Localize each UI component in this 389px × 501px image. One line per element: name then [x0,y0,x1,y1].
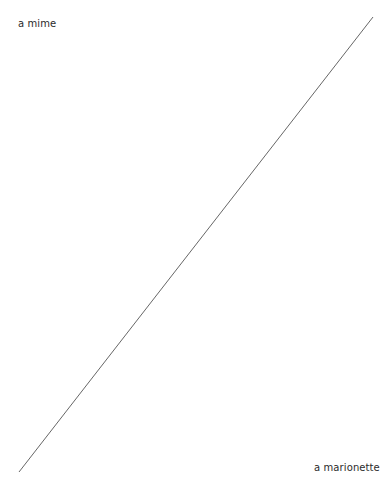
label-a-marionette: a marionette [314,462,380,473]
label-a-mime: a mime [18,18,56,29]
diagonal-line [0,0,389,501]
